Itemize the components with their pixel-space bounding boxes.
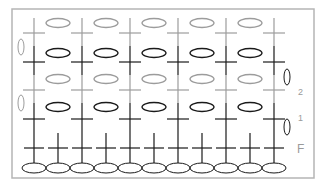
chain-space-icon [94, 19, 118, 28]
chain-space-icon [238, 75, 262, 84]
chain-space-icon [190, 19, 214, 28]
chart-frame [12, 9, 314, 178]
chain-space-icon [94, 103, 118, 112]
row-label: 2 [298, 88, 303, 97]
turning-chain-icon [18, 95, 24, 111]
chain-space-icon [190, 75, 214, 84]
chain-space-icon [46, 75, 70, 84]
chain-stitch-icon [214, 163, 238, 173]
turning-chain-icon [284, 69, 290, 85]
chain-space-icon [94, 75, 118, 84]
chain-space-icon [190, 49, 214, 58]
chain-space-icon [238, 49, 262, 58]
chain-stitch-icon [166, 163, 190, 173]
row-label: 1 [298, 114, 303, 123]
row-label: F [297, 143, 304, 155]
chain-space-icon [238, 103, 262, 112]
chain-space-icon [142, 75, 166, 84]
chain-stitch-icon [142, 163, 166, 173]
chain-stitch-icon [94, 163, 118, 173]
chain-stitch-icon [262, 163, 286, 173]
chain-stitch-icon [238, 163, 262, 173]
chain-space-icon [142, 19, 166, 28]
chain-space-icon [46, 49, 70, 58]
chain-space-icon [94, 49, 118, 58]
chain-stitch-icon [46, 163, 70, 173]
turning-chain-icon [18, 39, 24, 55]
chain-stitch-icon [190, 163, 214, 173]
chain-stitch-icon [70, 163, 94, 173]
chain-space-icon [238, 19, 262, 28]
chain-space-icon [46, 103, 70, 112]
chain-stitch-icon [118, 163, 142, 173]
crochet-chart [0, 0, 326, 185]
chain-space-icon [190, 103, 214, 112]
chain-space-icon [142, 103, 166, 112]
turning-chain-icon [284, 119, 290, 135]
chain-space-icon [46, 19, 70, 28]
chain-space-icon [142, 49, 166, 58]
chain-stitch-icon [22, 163, 46, 173]
